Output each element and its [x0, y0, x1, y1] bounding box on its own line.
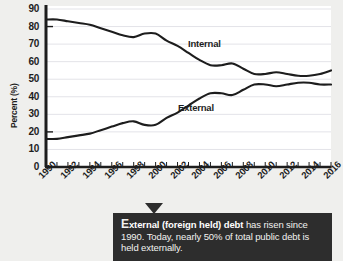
series-label-internal: Internal [188, 38, 221, 49]
callout-text: External (foreign held) debt has risen s… [121, 219, 324, 254]
plot-background [46, 6, 331, 167]
callout-box: External (foreign held) debt has risen s… [113, 213, 332, 261]
series-label-external: External [178, 102, 214, 113]
callout-bold-text: xternal (foreign held) debt [129, 219, 243, 230]
callout-lead-letter: E [121, 217, 129, 231]
